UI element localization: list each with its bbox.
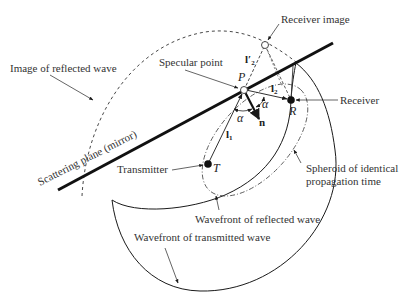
symbol-R: R (288, 104, 297, 118)
image-of-reflected-wave-label: Image of reflected wave (10, 62, 117, 74)
l1-vector (208, 94, 242, 164)
receiver-image-pointer (268, 24, 279, 40)
receiver-marker (287, 96, 295, 104)
transmitted-wavefront-pointer (165, 248, 178, 283)
reflected-wavefront-arc (112, 63, 296, 209)
reflection-diagram: Receiver image Image of reflected wave S… (0, 0, 403, 300)
image-wave-pointer (50, 75, 93, 100)
receiver-image-marker (262, 42, 269, 49)
l2-prime-line (244, 45, 265, 90)
spheroid-label-line2: propagation time (306, 175, 381, 187)
transmitted-wavefront-arc (112, 63, 336, 291)
receiver-image-label: Receiver image (281, 13, 350, 25)
symbol-n: n (259, 116, 265, 128)
specular-point-pointer (185, 70, 238, 88)
symbol-P: P (237, 70, 246, 84)
symbol-T: T (213, 161, 221, 175)
spheroid-ellipse (183, 65, 328, 214)
symbol-l2-prime: l′2 (245, 53, 255, 67)
reflected-wavefront-label: Wavefront of reflected wave (195, 213, 320, 225)
receiver-label: Receiver (340, 94, 379, 106)
transmitter-label: Transmitter (117, 163, 168, 175)
symbol-l2: l2 (271, 82, 278, 96)
specular-point-label: Specular point (159, 56, 223, 68)
spheroid-label-line1: Spheroid of identical (306, 162, 398, 174)
scattering-plane-label: Scattering plane (mirror) (35, 127, 139, 188)
transmitter-pointer (172, 165, 203, 170)
specular-point-marker (241, 87, 248, 94)
spheroid-pointer (294, 150, 301, 163)
transmitted-wavefront-label: Wavefront of transmitted wave (134, 231, 270, 243)
symbol-l1: l1 (226, 128, 233, 142)
symbol-alpha-incident: α (237, 111, 244, 125)
normal-vector (245, 92, 259, 119)
symbol-alpha-reflected: α (262, 97, 269, 111)
transmitter-marker (204, 160, 212, 168)
